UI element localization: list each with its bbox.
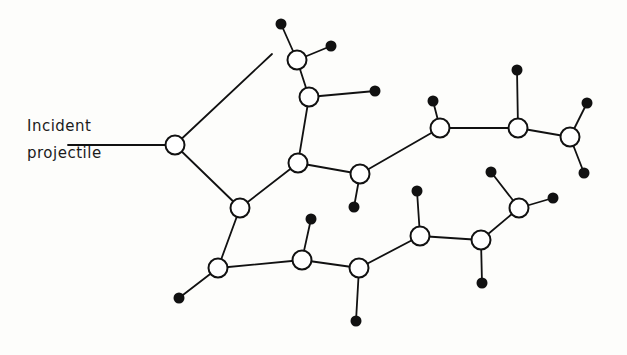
cascade-diagram-svg xyxy=(0,0,627,355)
cascade-edge xyxy=(240,163,298,208)
collision-cascade-figure: Incident projectile xyxy=(0,0,627,355)
stopped-atom-dot xyxy=(326,41,337,52)
lattice-atom-node xyxy=(509,119,528,138)
stopped-atom-dot xyxy=(486,167,497,178)
lattice-atom-node xyxy=(209,259,228,278)
stopped-atom-dot xyxy=(477,278,488,289)
stopped-atom-dot xyxy=(428,96,439,107)
lattice-atom-node xyxy=(288,51,307,70)
cascade-edge xyxy=(360,128,440,174)
lattice-atom-node xyxy=(411,227,430,246)
stopped-atom-dot xyxy=(349,202,360,213)
lattice-atom-node xyxy=(472,231,491,250)
stopped-atom-dot xyxy=(412,186,423,197)
stopped-atom-dot xyxy=(351,316,362,327)
cascade-edge xyxy=(175,54,272,145)
cascade-edge xyxy=(218,260,302,268)
stopped-atom-dot xyxy=(579,168,590,179)
incident-projectile-label-line2: projectile xyxy=(27,144,102,162)
lattice-atom-node xyxy=(231,199,250,218)
stopped-atom-dot xyxy=(548,193,559,204)
stopped-atom-dot xyxy=(276,19,287,30)
stopped-atom-dot xyxy=(582,98,593,109)
stopped-atom-dot xyxy=(512,65,523,76)
stopped-atom-dot xyxy=(306,214,317,225)
dot-layer xyxy=(174,19,593,327)
stopped-atom-dot xyxy=(370,86,381,97)
lattice-atom-node xyxy=(561,128,580,147)
lattice-atom-node xyxy=(300,88,319,107)
cascade-edge xyxy=(175,145,240,208)
lattice-atom-node xyxy=(293,251,312,270)
stopped-atom-dot xyxy=(174,293,185,304)
lattice-atom-node xyxy=(431,119,450,138)
lattice-atom-node xyxy=(166,136,185,155)
lattice-atom-node xyxy=(510,199,529,218)
lattice-atom-node xyxy=(350,259,369,278)
edge-layer xyxy=(68,24,587,321)
lattice-atom-node xyxy=(289,154,308,173)
lattice-atom-node xyxy=(351,165,370,184)
incident-projectile-label-line1: Incident xyxy=(27,117,91,135)
